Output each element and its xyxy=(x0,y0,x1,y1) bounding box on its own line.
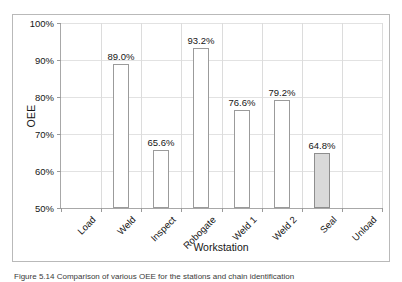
category-divider xyxy=(141,23,142,208)
x-axis-tick xyxy=(181,208,182,212)
y-axis-tick-label: 60% xyxy=(35,166,54,177)
bar-value-label: 76.6% xyxy=(229,97,256,108)
bar-seal: 64.8% xyxy=(314,153,330,208)
x-axis-tick xyxy=(61,208,62,212)
y-axis-tick xyxy=(57,134,61,135)
category-divider xyxy=(342,23,343,208)
x-axis-tick xyxy=(302,208,303,212)
y-axis-title: OEE xyxy=(25,105,37,128)
category-divider xyxy=(382,23,383,208)
bar-weld-2: 79.2% xyxy=(274,100,290,208)
x-axis-tick xyxy=(101,208,102,212)
y-axis-tick-label: 70% xyxy=(35,129,54,140)
y-axis-tick xyxy=(57,23,61,24)
y-axis-tick xyxy=(57,171,61,172)
bar-value-label: 79.2% xyxy=(269,87,296,98)
bar-weld: 89.0% xyxy=(113,64,129,208)
figure-caption: Figure 5.14 Comparison of various OEE fo… xyxy=(14,272,394,281)
y-axis-tick xyxy=(57,97,61,98)
bar-robogate: 93.2% xyxy=(193,48,209,208)
plot-area: 50%60%70%80%90%100% 89.0%65.6%93.2%76.6%… xyxy=(60,23,382,209)
x-axis-tick xyxy=(382,208,383,212)
x-axis-title: Workstation xyxy=(60,241,382,253)
bar-value-label: 89.0% xyxy=(108,51,135,62)
figure-container: OEE 50%60%70%80%90%100% 89.0%65.6%93.2%7… xyxy=(0,0,402,282)
x-axis-tick xyxy=(222,208,223,212)
category-divider xyxy=(302,23,303,208)
bar-weld-1: 76.6% xyxy=(234,110,250,208)
bar-value-label: 65.6% xyxy=(148,137,175,148)
y-axis-tick xyxy=(57,60,61,61)
y-axis-tick-label: 80% xyxy=(35,92,54,103)
bar-value-label: 93.2% xyxy=(188,35,215,46)
bar-value-label: 64.8% xyxy=(309,140,336,151)
y-axis-tick-label: 100% xyxy=(30,18,54,29)
y-axis-tick-label: 50% xyxy=(35,203,54,214)
x-axis-tick xyxy=(342,208,343,212)
y-axis-tick-label: 90% xyxy=(35,55,54,66)
category-divider xyxy=(262,23,263,208)
x-axis-tick xyxy=(262,208,263,212)
x-axis-tick xyxy=(141,208,142,212)
category-divider xyxy=(181,23,182,208)
bar-inspect: 65.6% xyxy=(153,150,169,208)
category-divider xyxy=(101,23,102,208)
category-divider xyxy=(222,23,223,208)
chart-frame: OEE 50%60%70%80%90%100% 89.0%65.6%93.2%7… xyxy=(12,14,390,262)
